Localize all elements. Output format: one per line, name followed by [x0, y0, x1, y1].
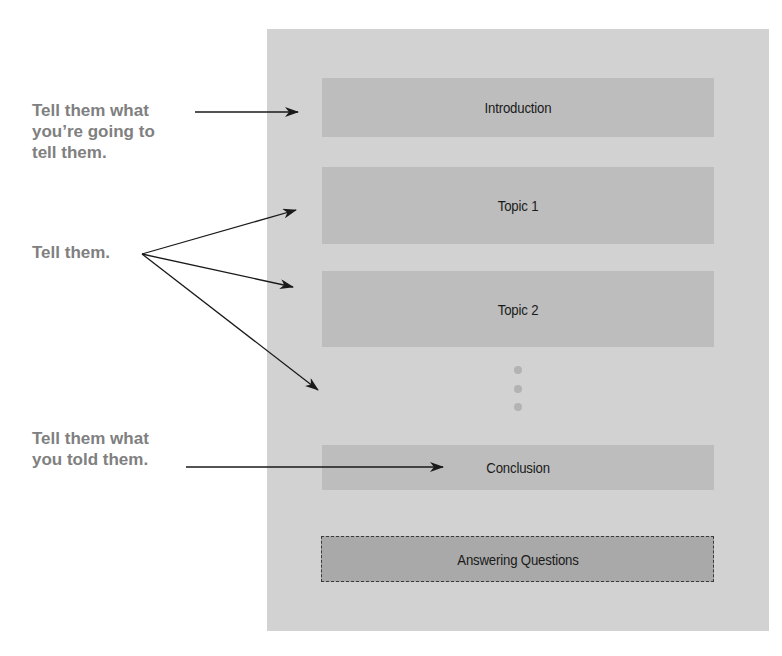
topic-1-box: Topic 1 [322, 167, 714, 244]
conclusion-box: Conclusion [322, 445, 714, 490]
topic-2-box: Topic 2 [322, 271, 714, 347]
ellipsis-dot-2 [514, 385, 522, 393]
ellipsis-dot-3 [514, 403, 522, 411]
conclusion-label: Conclusion [486, 459, 550, 476]
topic-1-label: Topic 1 [498, 197, 539, 214]
introduction-box: Introduction [322, 78, 714, 137]
introduction-label: Introduction [485, 99, 552, 116]
ellipsis-dot-1 [514, 366, 522, 374]
body-annotation: Tell them. [32, 242, 110, 263]
topic-2-label: Topic 2 [498, 301, 539, 318]
answering-questions-box: Answering Questions [321, 536, 714, 582]
answering-questions-label: Answering Questions [457, 551, 578, 568]
intro-annotation: Tell them what you’re going to tell them… [32, 100, 155, 163]
conclusion-annotation: Tell them what you told them. [32, 428, 149, 470]
